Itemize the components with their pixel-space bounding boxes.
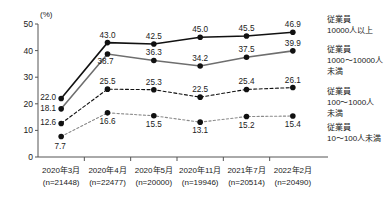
data-point (244, 114, 250, 120)
data-point (105, 110, 111, 116)
data-point-label: 34.2 (192, 54, 208, 63)
data-point-label: 25.5 (100, 77, 116, 86)
legend-item-label: 1000～10000人 (327, 56, 383, 65)
chart-container: (%)01020304050 22.043.042.545.045.546.91… (0, 0, 385, 197)
legend-item-label: 100～1000人 (327, 98, 374, 107)
legend-item-label: 10000人以上 (327, 26, 373, 35)
data-point (290, 29, 296, 35)
x-axis-category-label: 2022年2月 (274, 165, 312, 175)
data-point (244, 87, 250, 93)
x-axis-category-label: 2020年4月 (88, 165, 126, 175)
data-point (151, 87, 157, 93)
x-axis-sample-size-label: (n=20000) (135, 178, 172, 187)
x-axis-labels: 2020年3月(n=21448)2020年4月(n=22477)2020年5月(… (42, 165, 312, 187)
data-point-label: 12.6 (40, 118, 56, 127)
data-point-label: 39.9 (285, 39, 301, 48)
y-tick-label: 10 (24, 125, 34, 135)
data-point (58, 106, 64, 112)
data-point-label: 16.6 (100, 117, 116, 126)
y-tick-label: 20 (24, 99, 34, 109)
data-point-label: 36.3 (146, 48, 162, 57)
data-point-label: 37.5 (239, 45, 255, 54)
data-point (151, 58, 157, 64)
y-tick-label: 0 (28, 152, 33, 162)
series-line (61, 88, 293, 124)
legend-item-label: 従業員 (327, 122, 351, 132)
data-point-label: 15.4 (285, 120, 301, 129)
data-point (105, 51, 111, 57)
data-point-label: 43.0 (100, 31, 116, 40)
y-axis-unit-label: (%) (40, 10, 53, 19)
legend-item-label: 従業員 (327, 44, 351, 54)
legend-item-label: 10～100人未満 (327, 133, 381, 143)
data-point (105, 86, 111, 92)
data-point-label: 26.1 (285, 76, 301, 85)
x-axis-sample-size-label: (n=20490) (274, 178, 311, 187)
series-line (61, 113, 293, 137)
data-point (58, 96, 64, 102)
data-point (58, 134, 64, 140)
legend-item-label: 未満 (327, 108, 343, 118)
series-lines (58, 29, 295, 139)
data-point (290, 113, 296, 119)
data-point (105, 40, 111, 46)
y-tick-label: 50 (24, 19, 34, 29)
data-point-label: 15.5 (146, 120, 162, 129)
data-point-label: 45.5 (239, 24, 255, 33)
data-point-label: 46.9 (285, 20, 301, 29)
series-line (61, 32, 293, 98)
data-point-label: 15.2 (239, 121, 255, 130)
x-axis-sample-size-label: (n=19946) (182, 178, 219, 187)
data-point-labels: 22.043.042.545.045.546.918.138.736.334.2… (40, 20, 301, 150)
y-tick-label: 40 (24, 46, 34, 56)
data-point-label: 13.1 (192, 126, 208, 135)
data-point (244, 33, 250, 39)
legend-item-label: 従業員 (327, 14, 351, 24)
x-axis-sample-size-label: (n=20514) (228, 178, 265, 187)
line-chart: (%)01020304050 22.043.042.545.045.546.91… (0, 0, 385, 197)
x-axis-category-label: 2020年3月 (42, 165, 80, 175)
data-point-label: 25.3 (146, 78, 162, 87)
series-line (61, 51, 293, 109)
legend-item-label: 従業員 (327, 86, 351, 96)
data-point (197, 94, 203, 100)
data-point (58, 121, 64, 127)
data-point-label: 22.0 (40, 93, 56, 102)
x-axis-sample-size-label: (n=21448) (43, 178, 80, 187)
data-point (151, 113, 157, 119)
data-point (244, 54, 250, 60)
data-point (197, 63, 203, 69)
x-axis-category-label: 2020年11月 (179, 165, 221, 175)
data-point-label: 7.7 (54, 142, 66, 151)
data-point (197, 35, 203, 41)
data-point-label: 25.4 (239, 77, 255, 86)
data-point-label: 18.1 (40, 104, 56, 113)
x-axis-category-label: 2021年7月 (227, 165, 265, 175)
data-point-label: 45.0 (192, 25, 208, 34)
x-axis-sample-size-label: (n=22477) (89, 178, 126, 187)
legend: 従業員10000人以上従業員1000～10000人未満従業員100～1000人未… (327, 14, 383, 143)
data-point-label: 22.5 (192, 85, 208, 94)
data-point-label: 42.5 (146, 32, 162, 41)
y-tick-label: 30 (24, 72, 34, 82)
data-point (151, 41, 157, 47)
data-point (197, 119, 203, 125)
data-point-label: 38.7 (98, 57, 114, 66)
x-axis-category-label: 2020年5月 (135, 165, 173, 175)
legend-item-label: 未満 (327, 66, 343, 76)
data-point (290, 48, 296, 54)
data-point (290, 85, 296, 91)
